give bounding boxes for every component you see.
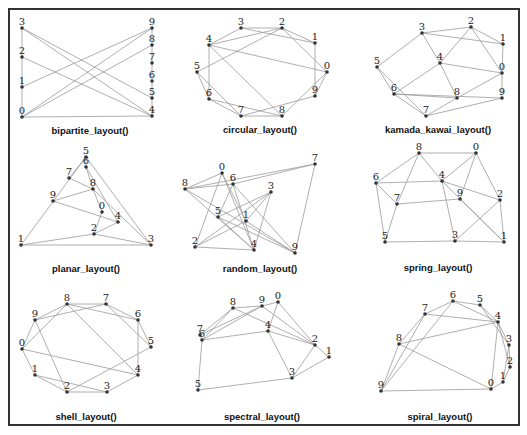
graph-edge [22,28,152,98]
graph-edge [394,94,426,116]
graph-edge [185,173,222,189]
graph-edge [377,33,422,67]
node-label: 7 [66,166,72,177]
graph-edge [107,375,138,392]
node-label: 3 [19,16,25,27]
node-label: 4 [251,238,257,249]
graph-edge [53,189,93,201]
node-label: 6 [206,87,212,98]
graph-edge [385,241,455,242]
panel-kamada-kawai: 0123456789kamada_kawai_layout() [374,15,506,135]
graph-edge [197,72,241,116]
graph-edge [22,116,152,117]
graph-edge [295,164,315,253]
graph-edge [185,164,315,189]
graph-edge [198,378,292,390]
graph-edge [22,349,138,375]
node-label: 7 [149,51,155,62]
node-label: 9 [312,84,318,95]
graph-edge [35,304,106,320]
graph-edge [455,200,500,241]
graph-edge [209,45,327,72]
panel-caption: spiral_layout() [408,411,473,422]
graph-edge [422,27,471,33]
node-label: 1 [32,363,38,374]
node-label: 1 [18,233,24,244]
node-label: 6 [149,69,155,80]
graph-edge [457,73,502,98]
node-label: 8 [454,86,460,97]
graph-edge [460,199,504,242]
node-label: 2 [91,222,97,233]
node-label: 7 [422,302,428,313]
node-label: 4 [135,363,141,374]
graph-edge [440,63,502,73]
node-label: 5 [477,293,483,304]
node-label: 6 [230,172,236,183]
node-label: 7 [197,323,203,334]
node-label: 0 [219,161,225,172]
graph-edge [22,57,152,116]
graph-edge [202,308,233,340]
node-label: 8 [279,104,285,115]
node-label: 6 [450,289,456,300]
panel-caption: spectral_layout() [224,411,300,422]
graph-edge [425,301,453,314]
panel-random: 0123456789random_layout() [182,152,318,274]
node-label: 2 [64,380,70,391]
graph-edge [94,234,151,245]
node-label: 5 [195,378,201,389]
node-label: 8 [396,332,402,343]
graph-edge [202,306,262,340]
panel-planar: 0123456789planar_layout() [18,145,154,274]
node-label: 2 [497,188,503,199]
panel-caption: shell_layout() [55,411,116,422]
node-label: 3 [238,16,244,27]
node-label: 7 [103,292,109,303]
graph-edge [35,375,67,392]
graph-edge [399,314,425,344]
panel-caption: circular_layout() [223,124,297,135]
node-label: 9 [457,187,463,198]
node-label: 9 [149,16,155,27]
node-label: 1 [326,345,332,356]
graph-edge [381,301,453,391]
node-label: 9 [378,379,384,390]
node-label: 4 [149,104,155,115]
graph-edge [422,33,503,44]
graph-edge [381,389,491,391]
node-label: 2 [507,355,513,366]
node-label: 1 [501,230,507,241]
node-label: 8 [64,292,70,303]
panel-bipartite: 0123456789bipartite_layout() [19,16,155,136]
node-label: 2 [192,235,198,246]
panel-caption: kamada_kawai_layout() [385,124,491,135]
graph-edge [399,344,491,389]
node-label: 6 [83,155,89,166]
graph-edge [292,345,315,378]
graph-edge [202,331,268,340]
panel-caption: spring_layout() [404,262,473,273]
graph-edge [442,181,500,200]
node-label: 7 [423,104,429,115]
node-label: 5 [148,335,154,346]
node-label: 8 [416,141,422,152]
graph-edge [282,72,327,116]
graph-edge [195,247,254,250]
panel-caption: random_layout() [223,263,297,274]
node-label: 1 [19,75,25,86]
node-label: 0 [19,337,25,348]
node-label: 0 [324,60,330,71]
node-label: 3 [419,21,425,32]
node-label: 9 [50,189,56,200]
node-label: 8 [182,177,188,188]
node-label: 9 [499,86,505,97]
node-label: 8 [90,177,96,188]
graph-edge [67,304,138,320]
panel-spiral: 0123456789spiral_layout() [378,289,513,422]
graph-edge [22,45,152,117]
panel-spectral: 0123456789spectral_layout() [195,290,332,422]
graph-edge [397,199,460,204]
node-label: 0 [275,290,281,301]
graph-edge [209,28,241,45]
